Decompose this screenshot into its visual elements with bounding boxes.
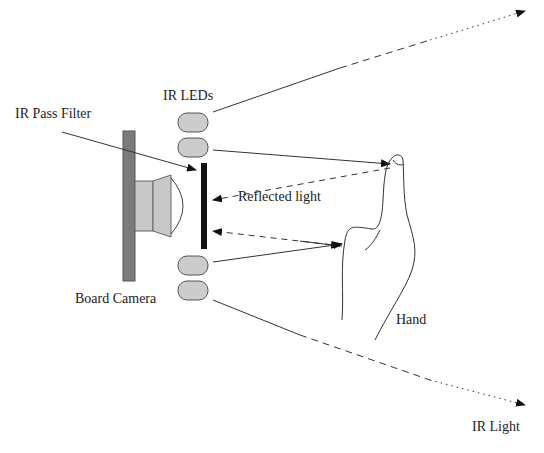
ir-led-1 [178,113,208,132]
ir-led-3 [178,256,208,275]
ir-beam-upper-dotted [430,11,525,40]
ir-beam-lower-solid [213,300,300,335]
diagram-canvas [0,0,544,453]
hand-label: Hand [396,313,426,327]
reflected-light-label: Reflected light [238,190,321,204]
ir-gesture-diagram: IR LEDs IR Pass Filter Reflected light B… [0,0,544,453]
ir-led-4 [178,281,208,300]
ir-leds-label: IR LEDs [163,89,213,103]
ir-beam-upper-dashed [340,40,430,68]
ir-beam-lower-dashed [300,335,430,380]
ir-beam-upper-solid [213,68,340,112]
camera-board [123,131,135,281]
ir-light-label: IR Light [472,420,520,434]
ir-beam-lower-dotted [430,380,525,405]
ir-led-2 [178,138,208,157]
fingernail [393,160,404,165]
emitted-light-to-fingertip [213,150,390,164]
board-camera-label: Board Camera [75,292,156,306]
emitted-light-to-palm [213,244,342,262]
camera-lens-dome [171,178,183,234]
ir-pass-filter-label: IR Pass Filter [15,107,91,121]
ir-pass-filter [201,163,207,249]
camera-lens-base [135,181,153,231]
thumb-crease [365,230,380,250]
camera-lens-barrel [153,175,171,237]
reflected-light-lower-head [300,241,340,246]
